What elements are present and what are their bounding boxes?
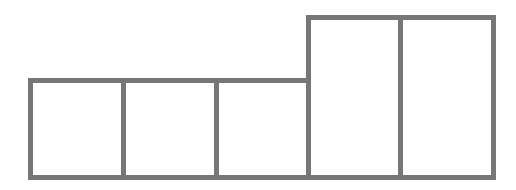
diagram-cell-1-short (31, 81, 124, 178)
diagram-cell-2-short (124, 81, 217, 178)
block-diagram-svg (0, 0, 516, 190)
diagram-cell-4-tall (309, 18, 401, 178)
diagram-cell-5-tall (401, 18, 494, 178)
block-diagram (0, 0, 516, 190)
diagram-cell-3-short (217, 81, 309, 178)
